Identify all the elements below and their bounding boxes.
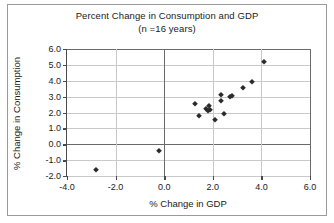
gridline-vertical [164, 49, 165, 176]
y-axis-tick [63, 128, 67, 129]
gridline-horizontal [67, 65, 310, 66]
gridline-horizontal [67, 49, 310, 50]
y-axis-tick-label: 1.0 [48, 123, 61, 133]
x-axis-tick-label: 0.0 [158, 182, 171, 192]
y-axis-tick-label: -1.0 [45, 155, 61, 165]
data-point [191, 101, 197, 107]
gridline-vertical [116, 49, 117, 176]
x-axis-tick [310, 176, 311, 180]
gridline-horizontal [67, 97, 310, 98]
y-axis-tick-label: 2.0 [48, 108, 61, 118]
data-point [249, 78, 255, 84]
gridline-horizontal [67, 160, 310, 161]
gridline-vertical [310, 49, 311, 176]
x-axis-tick [261, 176, 262, 180]
x-axis-tick-label: -2.0 [108, 182, 124, 192]
x-axis-tick [213, 176, 214, 180]
data-point [221, 111, 227, 117]
y-axis-tick-label: 4.0 [48, 76, 61, 86]
x-axis-tick [67, 176, 68, 180]
gridline-horizontal [67, 113, 310, 114]
chart-title: Percent Change in Consumption and GDP [0, 10, 334, 21]
y-axis-title: % Change in Consumption [9, 49, 23, 177]
plot-area: -2.0-1.00.01.02.03.04.05.06.0-4.0-2.00.0… [66, 49, 310, 177]
x-axis-tick-label: -4.0 [59, 182, 75, 192]
data-point [93, 167, 99, 173]
data-point [240, 85, 246, 91]
gridline-vertical [261, 49, 262, 176]
y-axis-tick [63, 113, 67, 114]
y-axis-tick [63, 81, 67, 82]
y-axis-tick-label: -2.0 [45, 171, 61, 181]
x-axis-tick [164, 176, 165, 180]
x-axis-tick-label: 4.0 [255, 182, 268, 192]
data-point [196, 113, 202, 119]
x-axis-tick-label: 6.0 [304, 182, 317, 192]
y-axis-tick-label: 3.0 [48, 92, 61, 102]
y-axis-tick-label: 6.0 [48, 44, 61, 54]
y-axis-tick-label: 0.0 [48, 139, 61, 149]
gridline-horizontal [67, 81, 310, 82]
x-axis-tick [116, 176, 117, 180]
y-axis-tick [63, 49, 67, 50]
x-axis-title: % Change in GDP [66, 198, 310, 209]
chart-subtitle: (n =16 years) [0, 23, 334, 34]
data-point [218, 98, 224, 104]
y-axis-tick [63, 160, 67, 161]
y-axis-tick [63, 144, 67, 145]
y-axis-tick [63, 65, 67, 66]
y-axis-tick [63, 97, 67, 98]
chart-container: Percent Change in Consumption and GDP (n… [0, 0, 334, 223]
gridline-horizontal [67, 144, 310, 145]
data-point [229, 93, 235, 99]
y-axis-title-label: % Change in Consumption [11, 56, 22, 169]
x-axis-tick-label: 2.0 [207, 182, 220, 192]
gridline-horizontal [67, 128, 310, 129]
gridline-horizontal [67, 176, 310, 177]
gridline-vertical [213, 49, 214, 176]
y-axis-tick-label: 5.0 [48, 60, 61, 70]
data-point [156, 147, 162, 153]
